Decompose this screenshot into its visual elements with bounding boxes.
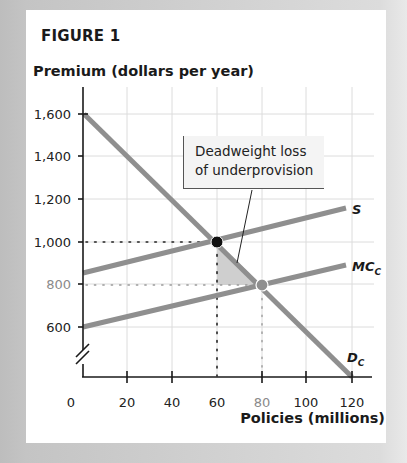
svg-text:100: 100 [294, 395, 319, 410]
y-tick-labels: 1,600 1,400 1,200 1,000 800 600 [34, 107, 71, 335]
equilibrium-point-underprovision [211, 236, 223, 248]
svg-text:60: 60 [209, 395, 226, 410]
svg-text:20: 20 [119, 395, 136, 410]
axes [76, 87, 372, 383]
svg-text:120: 120 [340, 395, 365, 410]
curve-label-mc: MCC [352, 259, 381, 277]
svg-text:1,400: 1,400 [34, 149, 71, 164]
efficient-point [256, 279, 268, 291]
svg-text:1,000: 1,000 [34, 235, 71, 250]
svg-text:600: 600 [46, 320, 71, 335]
svg-text:40: 40 [164, 395, 181, 410]
callout-pointer [237, 190, 252, 263]
chart-plot-area: 1,600 1,400 1,200 1,000 800 600 0 20 40 … [0, 0, 407, 463]
curve-label-d: DC [347, 350, 365, 368]
svg-text:80: 80 [254, 395, 271, 410]
svg-text:1,200: 1,200 [34, 192, 71, 207]
svg-text:1,600: 1,600 [34, 107, 71, 122]
svg-text:800: 800 [46, 277, 71, 292]
callout-line-2: of underprovision [195, 161, 324, 180]
gridlines [83, 87, 374, 377]
curve-label-s: S [352, 202, 361, 217]
svg-text:0: 0 [67, 395, 75, 410]
deadweight-loss-callout: Deadweight loss of underprovision [183, 136, 324, 189]
callout-line-1: Deadweight loss [195, 142, 324, 161]
x-tick-labels: 0 20 40 60 80 100 120 [67, 395, 365, 410]
marginal-cost-curve-mc [83, 265, 346, 327]
x-axis-title: Policies (millions) [240, 410, 385, 426]
reference-lines-efficient [86, 285, 262, 376]
